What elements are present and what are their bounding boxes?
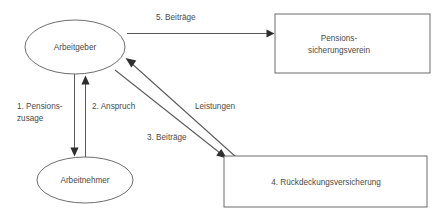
node-rueckdeckungsversicherung-label: 4. Rückdeckungsversicherung (271, 178, 381, 187)
diagram-svg: Arbeitgeber Arbeitnehmer Pensions- siche… (0, 0, 439, 221)
edge-anspruch-arrowhead (81, 76, 89, 85)
edge-beitraege-5 (127, 30, 275, 38)
edge-pensionszusage (70, 74, 78, 157)
edge-label-pensionszusage-line2: zusage (17, 114, 44, 123)
edge-label-anspruch: 2. Anspruch (92, 102, 136, 111)
node-arbeitnehmer-label: Arbeitnehmer (60, 176, 109, 185)
node-pensionssicherungsverein[interactable]: Pensions- sicherungsverein (275, 14, 430, 73)
edge-anspruch (81, 76, 89, 159)
edge-label-beitraege-3: 3. Beiträge (147, 133, 187, 142)
edge-label-leistungen: Leistungen (195, 102, 236, 111)
node-pensionssicherungsverein-label-line2: sicherungsverein (308, 46, 370, 55)
node-arbeitgeber[interactable]: Arbeitgeber (25, 20, 125, 74)
node-arbeitnehmer[interactable]: Arbeitnehmer (37, 157, 133, 203)
edge-beitraege-3 (115, 70, 227, 159)
diagram-canvas: Arbeitgeber Arbeitnehmer Pensions- siche… (0, 0, 439, 221)
node-rueckdeckungsversicherung[interactable]: 4. Rückdeckungsversicherung (224, 156, 427, 207)
node-arbeitgeber-label: Arbeitgeber (54, 43, 97, 52)
edge-label-beitraege-5: 5. Beiträge (156, 13, 196, 22)
edge-pensionszusage-arrowhead (70, 148, 78, 157)
node-pensionssicherungsverein-label-line1: Pensions- (321, 34, 358, 43)
node-pensionssicherungsverein-box[interactable] (275, 14, 430, 73)
edge-beitraege-5-arrowhead (267, 30, 275, 38)
edge-beitraege-3-line (115, 70, 223, 155)
edge-label-pensionszusage-line1: 1. Pensions- (17, 102, 63, 111)
